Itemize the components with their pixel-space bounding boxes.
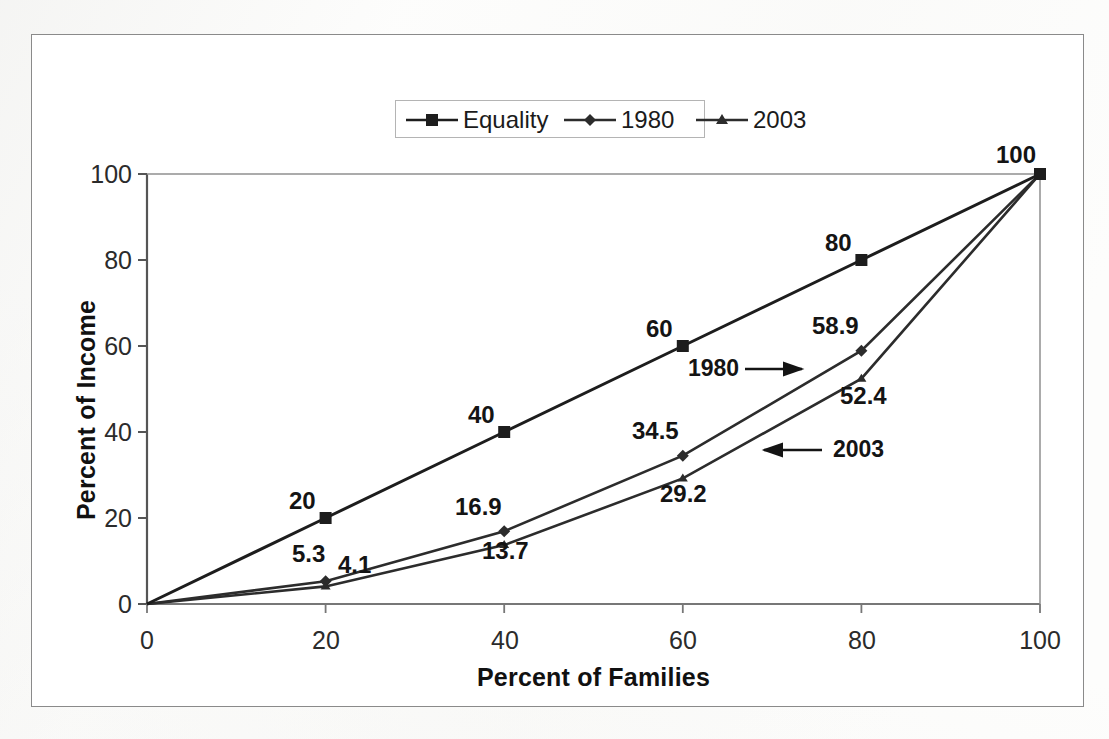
data-label-equality-60: 60	[646, 315, 673, 343]
data-label-equality-80: 80	[825, 229, 852, 257]
y-tick-label-0: 0	[88, 590, 132, 619]
legend-label-2003: 2003	[753, 106, 806, 134]
data-label-2003-60: 29.2	[660, 480, 707, 508]
y-tick-marks	[138, 174, 147, 604]
x-tick-label-0: 0	[127, 626, 167, 655]
legend-marker-square-icon	[406, 112, 458, 128]
chart-page: 0 20 40 60 80 100 0 20 40 60 80 100 Perc…	[0, 0, 1109, 739]
marker-equality-100	[1034, 168, 1046, 180]
marker-1980-60	[677, 450, 689, 462]
x-tick-label-40: 40	[484, 626, 526, 655]
series-markers-1980	[320, 345, 868, 588]
legend-item-2003[interactable]: 2003	[696, 101, 806, 139]
legend-label-1980: 1980	[621, 106, 674, 134]
marker-equality-40	[498, 426, 510, 438]
data-label-equality-20: 20	[289, 487, 316, 515]
legend-label-equality: Equality	[463, 106, 548, 134]
y-tick-label-100: 100	[75, 160, 132, 189]
annotation-label-1980: 1980	[688, 355, 739, 382]
legend-marker-diamond-icon	[564, 112, 616, 128]
series-markers-equality	[320, 168, 1046, 524]
x-tick-label-60: 60	[662, 626, 704, 655]
annotation-label-2003: 2003	[833, 436, 884, 463]
data-label-1980-40: 16.9	[455, 493, 502, 521]
x-tick-marks	[147, 604, 1040, 613]
y-tick-label-80: 80	[88, 246, 132, 275]
data-label-1980-20: 5.3	[292, 540, 325, 568]
data-label-equality-40: 40	[468, 401, 495, 429]
x-tick-label-80: 80	[841, 626, 883, 655]
x-tick-label-20: 20	[305, 626, 347, 655]
legend-marker-triangle-icon	[696, 112, 748, 128]
x-tick-label-100: 100	[1012, 626, 1068, 655]
data-label-2003-20: 4.1	[338, 551, 371, 579]
marker-1980-40	[498, 525, 510, 537]
x-axis-title: Percent of Families	[147, 663, 1040, 692]
series-line-equality	[147, 174, 1040, 604]
y-axis-title: Percent of Income	[72, 300, 101, 520]
data-label-1980-80: 58.9	[812, 312, 859, 340]
data-label-1980-60: 34.5	[632, 417, 679, 445]
data-label-2003-80: 52.4	[840, 382, 887, 410]
data-label-equality-100: 100	[996, 141, 1036, 169]
marker-equality-60	[677, 340, 689, 352]
marker-equality-20	[320, 512, 332, 524]
chart-legend: Equality 1980 2003	[395, 100, 705, 138]
marker-equality-80	[855, 254, 867, 266]
legend-item-1980[interactable]: 1980	[564, 101, 674, 139]
legend-item-equality[interactable]: Equality	[406, 101, 548, 139]
data-label-2003-40: 13.7	[482, 537, 529, 565]
